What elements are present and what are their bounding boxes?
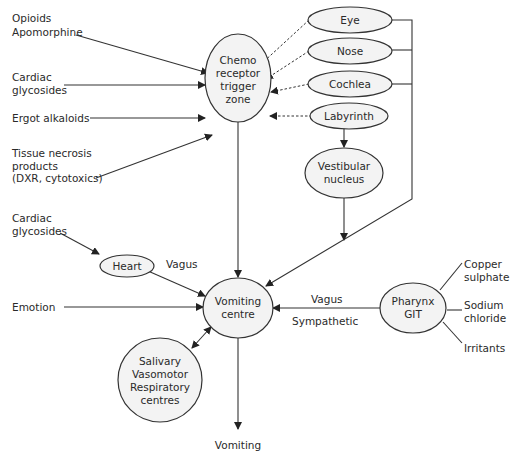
cochlea-label: Cochlea xyxy=(329,78,371,90)
salivary-label-4: centres xyxy=(140,394,179,406)
edge-nose-ctz xyxy=(266,51,309,79)
node-labyrinth: Labyrinth xyxy=(310,103,388,129)
input-sodium-1: Sodium xyxy=(464,299,504,311)
edge-heart-vc xyxy=(148,271,205,296)
input-sodium-2: chloride xyxy=(464,312,506,324)
input-ergot: Ergot alkaloids xyxy=(12,112,89,124)
salivary-label-3: Respiratory xyxy=(130,381,190,393)
node-ctz: Chemo receptor trigger zone xyxy=(205,34,271,122)
input-opioids-2: Apomorphine xyxy=(12,26,83,38)
node-eye: Eye xyxy=(308,7,392,33)
input-copper-2: sulphate xyxy=(464,271,509,283)
eye-label: Eye xyxy=(340,14,359,26)
edge-cochlea-ctz xyxy=(271,84,309,92)
node-cochlea: Cochlea xyxy=(308,71,392,97)
edge-tissue-ctz xyxy=(96,135,212,178)
edge-opioids-ctz xyxy=(76,35,208,73)
input-cardiac-heart-2: glycosides xyxy=(12,225,67,237)
input-irritants: Irritants xyxy=(464,342,505,354)
node-vestibular: Vestibular nucleus xyxy=(305,148,383,198)
node-nose: Nose xyxy=(308,38,392,64)
node-vomiting-centre: Vomiting centre xyxy=(203,278,273,338)
vestibular-label-1: Vestibular xyxy=(318,160,371,172)
vc-label-1: Vomiting xyxy=(215,295,261,307)
input-tissue-1: Tissue necrosis xyxy=(11,147,92,159)
salivary-label-2: Vasomotor xyxy=(132,368,189,380)
vc-label-2: centre xyxy=(221,308,255,320)
ctz-label-2: receptor xyxy=(216,67,261,79)
salivary-label-1: Salivary xyxy=(139,355,181,367)
ctz-label-1: Chemo xyxy=(219,54,256,66)
node-heart: Heart xyxy=(100,255,154,277)
ctz-label-4: zone xyxy=(225,93,250,105)
output-vomiting-label: Vomiting xyxy=(215,439,261,451)
input-emotion: Emotion xyxy=(12,301,55,313)
pharynx-label-1: Pharynx xyxy=(392,295,435,307)
label-pharynx-vagus: Vagus xyxy=(311,293,343,305)
node-salivary: Salivary Vasomotor Respiratory centres xyxy=(118,338,202,422)
vestibular-label-2: nucleus xyxy=(324,173,365,185)
labyrinth-label: Labyrinth xyxy=(324,110,374,122)
vomiting-pathway-diagram: Chemo receptor trigger zone Eye Nose Coc… xyxy=(0,0,510,464)
edge-copper-pharynx xyxy=(440,263,462,290)
input-cardiac-ctz-1: Cardiac xyxy=(12,71,52,83)
edge-irritants-pharynx xyxy=(443,322,462,343)
input-cardiac-heart-1: Cardiac xyxy=(12,212,52,224)
input-tissue-2: products xyxy=(12,160,58,172)
input-tissue-3: (DXR, cytotoxics) xyxy=(12,172,103,184)
label-heart-vagus: Vagus xyxy=(166,258,198,270)
pharynx-label-2: GIT xyxy=(404,308,422,320)
ctz-label-3: trigger xyxy=(220,80,256,92)
input-cardiac-ctz-2: glycosides xyxy=(12,84,67,96)
input-copper-1: Copper xyxy=(464,258,503,270)
input-opioids-1: Opioids xyxy=(12,12,51,24)
node-pharynx: Pharynx GIT xyxy=(380,283,446,333)
heart-label: Heart xyxy=(112,260,141,272)
edge-salivary-vc xyxy=(192,327,211,348)
label-pharynx-sympathetic: Sympathetic xyxy=(292,315,358,327)
nose-label: Nose xyxy=(337,45,363,57)
